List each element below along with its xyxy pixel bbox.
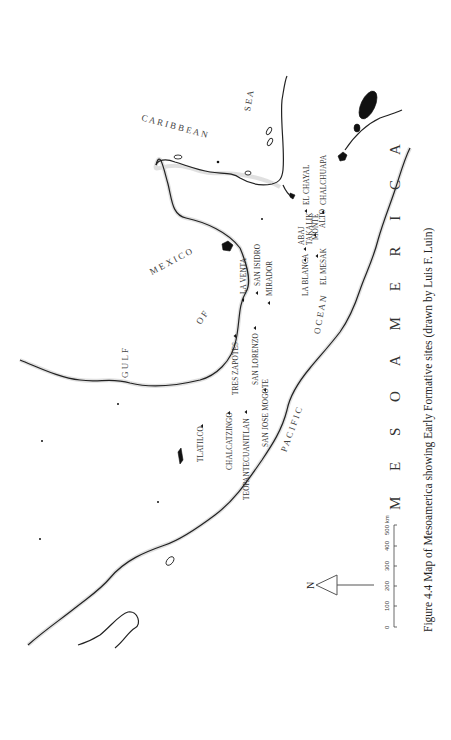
svg-text:MIRADOR: MIRADOR	[266, 261, 274, 296]
site-marker-icon	[245, 410, 248, 414]
ocean-label: O C E A N	[312, 294, 329, 335]
svg-text:ABAJ: ABAJ	[298, 226, 306, 245]
gulf-label: G U L F	[120, 348, 130, 378]
site-monte-alto: MONTE ALTO	[312, 209, 327, 240]
lake-nicaragua	[355, 88, 380, 121]
site-chalchuapa: CHALCHUAPA	[320, 154, 328, 214]
svg-text:200: 200	[384, 580, 390, 591]
site-la-blanca: LA BLANCA	[302, 253, 310, 296]
svg-text:SAN JOSE MOGOTE: SAN JOSE MOGOTE	[262, 378, 270, 447]
lake-izabal	[338, 152, 347, 161]
north-arrow-icon	[316, 575, 337, 595]
svg-text:300: 300	[384, 560, 390, 571]
mesoamerica-map: G U L F O F M E X I C O C A R I B B E A …	[0, 0, 451, 740]
svg-text:SAN ISIDRO: SAN ISIDRO	[254, 244, 262, 286]
site-mirador: MIRADOR	[266, 261, 274, 305]
site-san-jose-mogote: SAN JOSE MOGOTE	[262, 378, 270, 447]
site-marker-icon	[316, 254, 319, 258]
site-tlatilco: TLATILCO	[197, 424, 205, 462]
lakes-and-islands	[39, 88, 381, 566]
svg-text:EL MESAK: EL MESAK	[320, 247, 328, 285]
svg-text:LA VENTA: LA VENTA	[240, 257, 248, 294]
site-teopantecuanitlan: TEOPANTECUANITLAN	[243, 410, 251, 500]
pacific-label: P A C I F I C	[279, 406, 304, 453]
sea-label: S E A	[242, 89, 256, 112]
coastlines	[20, 76, 410, 648]
laguna-terminos	[222, 241, 233, 251]
site-tres-zapotes: TRES ZAPOTES	[232, 334, 240, 395]
svg-text:CHALCATZINGO: CHALCATZINGO	[226, 412, 234, 470]
sites: TLATILCO CHALCATZINGO TEOPANTECUANITLAN …	[197, 154, 328, 500]
site-san-lorenzo: SAN LORENZO	[252, 326, 260, 385]
site-marker-icon	[268, 301, 271, 305]
site-chalcatzingo: CHALCATZINGO	[226, 411, 234, 470]
svg-text:SAN LORENZO: SAN LORENZO	[252, 333, 260, 385]
svg-text:100: 100	[384, 600, 390, 611]
svg-text:0: 0	[384, 625, 390, 629]
svg-text:TRES ZAPOTES: TRES ZAPOTES	[232, 342, 240, 395]
site-san-isidro: SAN ISIDRO	[254, 244, 262, 295]
north-label: N	[305, 582, 316, 589]
site-marker-icon	[254, 326, 257, 330]
north-arrow: N	[305, 575, 374, 595]
site-marker-icon	[304, 247, 307, 251]
svg-text:CHALCHUAPA: CHALCHUAPA	[320, 154, 328, 205]
site-el-chayal: EL CHAYAL	[303, 164, 311, 213]
of-label: O F	[194, 309, 210, 326]
site-marker-icon	[256, 291, 259, 295]
water-labels: G U L F O F M E X I C O C A R I B B E A …	[120, 89, 329, 453]
svg-text:TLATILCO: TLATILCO	[197, 426, 205, 462]
svg-text:400: 400	[384, 540, 390, 551]
region-title: M E S O A M E R I C A	[387, 133, 403, 510]
svg-text:EL CHAYAL: EL CHAYAL	[303, 164, 311, 205]
scale-bar: 0 100 200 300 400 500 km	[384, 515, 397, 629]
figure-caption: Figure 4.4 Map of Mesoamerica showing Ea…	[422, 227, 435, 632]
site-el-mesak: EL MESAK	[316, 247, 329, 285]
svg-text:500 km: 500 km	[384, 515, 390, 535]
svg-text:TEOPANTECUANITLAN: TEOPANTECUANITLAN	[243, 418, 251, 500]
caribbean-label: C A R I B B E A N	[141, 113, 210, 140]
mexico-label: M E X I C O	[148, 246, 194, 277]
svg-text:LA BLANCA: LA BLANCA	[302, 253, 310, 296]
